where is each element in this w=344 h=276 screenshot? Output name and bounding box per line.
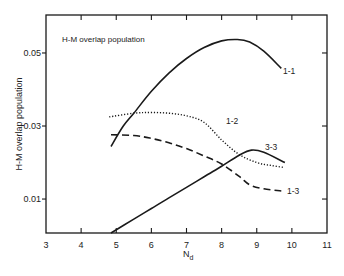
curve-3-3 xyxy=(111,150,285,233)
curve-label-1-2: 1-2 xyxy=(226,116,239,126)
x-tick-label: 8 xyxy=(219,240,224,250)
y-tick-label: 0.01 xyxy=(23,194,41,204)
x-tick-label: 3 xyxy=(43,240,48,250)
y-tick-label: 0.05 xyxy=(23,48,41,58)
curve-1-1 xyxy=(111,39,281,146)
curve-label-1-1: 1-1 xyxy=(283,66,296,76)
x-tick-label: 4 xyxy=(79,240,84,250)
y-axis-label: H-M overlap population xyxy=(14,77,24,170)
x-tick-label: 11 xyxy=(322,240,331,250)
curves xyxy=(109,39,285,233)
line-chart: 34567891011 0.010.030.05 H-M overlap pop… xyxy=(0,0,344,276)
x-tick-label: 6 xyxy=(149,240,154,250)
x-tick-label: 9 xyxy=(254,240,259,250)
plot-frame xyxy=(46,15,327,233)
y-axis-ticks: 0.010.030.05 xyxy=(23,48,327,204)
chart-title: H-M overlap population xyxy=(62,35,145,44)
curve-label-1-3: 1-3 xyxy=(287,186,300,196)
x-tick-label: 5 xyxy=(114,240,119,250)
curve-1-2 xyxy=(109,113,283,168)
x-tick-label: 10 xyxy=(287,240,297,250)
x-axis-label-sub: d xyxy=(190,254,194,261)
curve-1-3 xyxy=(111,135,281,191)
x-axis-label: Nd xyxy=(183,249,194,261)
y-tick-label: 0.03 xyxy=(23,121,41,131)
x-axis-ticks: 34567891011 xyxy=(43,15,331,250)
curve-label-3-3: 3-3 xyxy=(265,142,278,152)
